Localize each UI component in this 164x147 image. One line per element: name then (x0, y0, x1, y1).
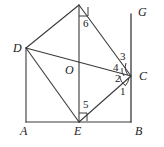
point-label-G: G (138, 6, 147, 18)
point-label-D: D (13, 42, 22, 54)
point-label-O: O (65, 64, 74, 76)
angle-arc-4 (122, 68, 124, 76)
point-label-E: E (74, 125, 81, 137)
angle-label-5: 5 (83, 99, 89, 110)
angle-label-6: 6 (83, 18, 89, 29)
angle-label-3: 3 (120, 51, 126, 62)
segment-DE (26, 48, 79, 122)
geometry-figure: D A E B C G O 6 5 3 4 2 1 (0, 0, 164, 147)
angle-label-1: 1 (120, 86, 126, 97)
angle-arc-3 (125, 63, 128, 75)
right-angle-marker-at-E (79, 113, 87, 121)
point-label-C: C (139, 70, 147, 82)
segment-DF (26, 5, 79, 48)
point-label-A: A (20, 125, 27, 137)
angle-label-2: 2 (115, 73, 121, 84)
point-label-B: B (135, 125, 142, 137)
